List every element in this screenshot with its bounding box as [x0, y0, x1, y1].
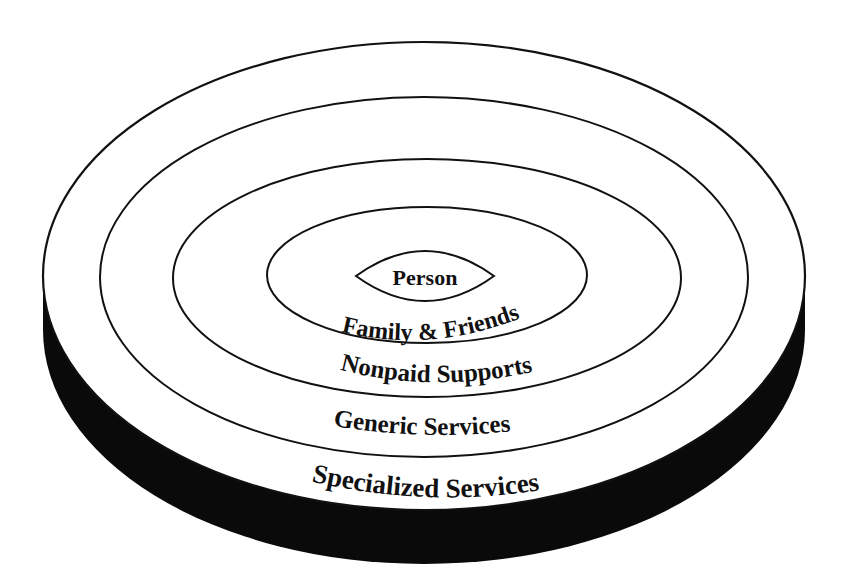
label-person: Person	[393, 265, 458, 290]
concentric-support-diagram: Person Family & Friends Nonpaid Supports…	[0, 0, 844, 581]
